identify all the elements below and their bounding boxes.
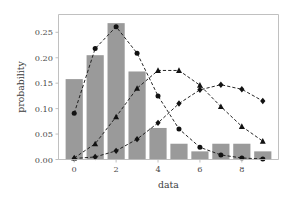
bar-4	[149, 128, 166, 160]
bar-5	[170, 144, 187, 160]
ytick-label-0.25: 0.25	[35, 27, 53, 37]
circle-series-marker-6	[197, 145, 202, 150]
bar-6	[191, 151, 208, 159]
chart-figure: 0.000.050.100.150.200.2502468dataprobabi…	[0, 0, 297, 201]
circle-series-marker-5	[176, 126, 181, 131]
xtick-label-6: 6	[197, 164, 202, 174]
chart-plot-area: 0.000.050.100.150.200.2502468dataprobabi…	[0, 0, 297, 201]
xtick-label-2: 2	[114, 164, 119, 174]
circle-series-marker-9	[260, 156, 265, 161]
triangle-series-marker-5	[176, 67, 182, 73]
diamond-series-marker-8	[239, 86, 244, 92]
diamond-series-marker-7	[218, 82, 223, 88]
bar-3	[128, 71, 145, 159]
ytick-label-0.10: 0.10	[35, 104, 53, 114]
xtick-label-8: 8	[239, 164, 244, 174]
ytick-label-0.15: 0.15	[35, 78, 53, 88]
circle-series-marker-7	[218, 152, 223, 157]
circle-series-marker-4	[156, 93, 161, 98]
circle-series-marker-2	[114, 24, 119, 29]
bar-2	[108, 23, 125, 159]
triangle-series-marker-7	[218, 103, 224, 109]
circle-series-marker-0	[72, 111, 77, 116]
ytick-label-0.00: 0.00	[35, 155, 53, 165]
bar-0	[66, 79, 83, 159]
ytick-label-0.05: 0.05	[35, 129, 53, 139]
ytick-label-0.20: 0.20	[35, 53, 53, 63]
x-axis-title: data	[158, 179, 179, 190]
xtick-label-0: 0	[72, 164, 77, 174]
diamond-series-marker-9	[260, 98, 265, 104]
xtick-label-4: 4	[155, 164, 160, 174]
y-axis-title: probability	[15, 61, 26, 113]
triangle-series-marker-9	[260, 138, 266, 144]
circle-series-marker-3	[135, 51, 140, 56]
bar-series	[66, 23, 272, 159]
circle-series-marker-1	[93, 46, 98, 51]
